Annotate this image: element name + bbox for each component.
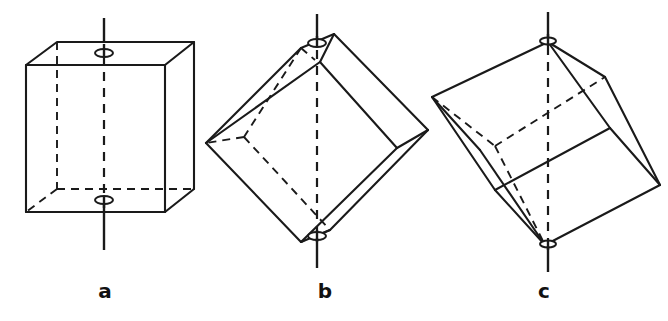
figure-plate: a b c [0,0,668,321]
caption-label-c: c [524,278,564,304]
figure-panel-b [200,0,432,290]
clipped-caption-line [30,314,650,321]
caption-row: a b c [0,278,668,308]
caption-label-b: b [305,278,345,304]
figure-panel-a [0,0,222,290]
figure-panel-c [420,0,668,290]
cube-a-right-face [165,42,194,212]
caption-label-a: a [85,278,125,304]
